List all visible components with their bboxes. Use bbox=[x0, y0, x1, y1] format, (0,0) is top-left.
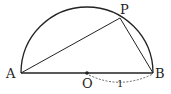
label-B: B bbox=[155, 66, 165, 81]
radius-label: 1 bbox=[117, 78, 123, 89]
label-P: P bbox=[120, 2, 129, 17]
chord-AP bbox=[21, 18, 120, 73]
center-point-O bbox=[85, 71, 89, 75]
label-O: O bbox=[82, 76, 93, 91]
chord-PB bbox=[120, 18, 153, 73]
semicircle-diagram: A B O P 1 bbox=[0, 0, 171, 94]
label-A: A bbox=[5, 66, 16, 81]
